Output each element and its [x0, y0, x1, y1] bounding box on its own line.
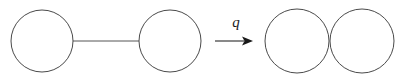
node-right-1[interactable]	[265, 9, 329, 73]
right-graph-group	[265, 9, 394, 73]
node-left-2[interactable]	[139, 10, 201, 72]
left-graph-group	[11, 10, 201, 72]
diagram-canvas: q	[0, 0, 403, 78]
diagram-svg: q	[0, 0, 403, 78]
operator-group: q	[215, 14, 253, 46]
node-right-2[interactable]	[330, 9, 394, 73]
node-left-1[interactable]	[11, 10, 73, 72]
operator-label-q: q	[232, 14, 240, 30]
